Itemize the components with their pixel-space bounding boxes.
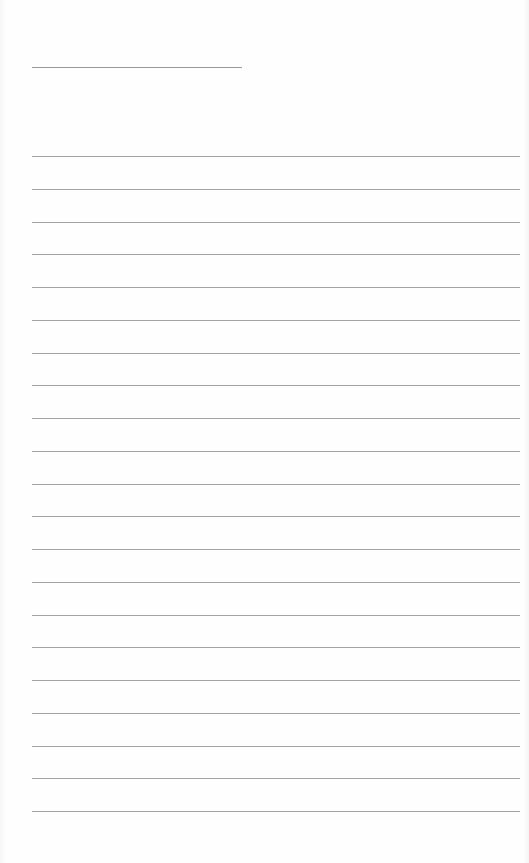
ruled-line (32, 156, 520, 157)
ruled-line (32, 647, 520, 648)
ruled-line (32, 451, 520, 452)
ruled-line (32, 484, 520, 485)
ruled-line (32, 582, 520, 583)
ruled-line (32, 811, 520, 812)
ruled-line (32, 778, 520, 779)
ruled-line (32, 516, 520, 517)
ruled-line (32, 353, 520, 354)
ruled-line (32, 189, 520, 190)
ruled-line (32, 746, 520, 747)
ruled-line (32, 287, 520, 288)
ruled-line (32, 713, 520, 714)
ruled-line (32, 385, 520, 386)
page-left-edge-shadow (0, 0, 6, 863)
ruled-line (32, 222, 520, 223)
ruled-line (32, 254, 520, 255)
title-line (32, 67, 242, 68)
ruled-line (32, 680, 520, 681)
ruled-line (32, 418, 520, 419)
ruled-line (32, 549, 520, 550)
ruled-line (32, 615, 520, 616)
ruled-line (32, 320, 520, 321)
page-right-edge-shadow (523, 0, 529, 863)
ruled-paper-page (0, 0, 529, 863)
